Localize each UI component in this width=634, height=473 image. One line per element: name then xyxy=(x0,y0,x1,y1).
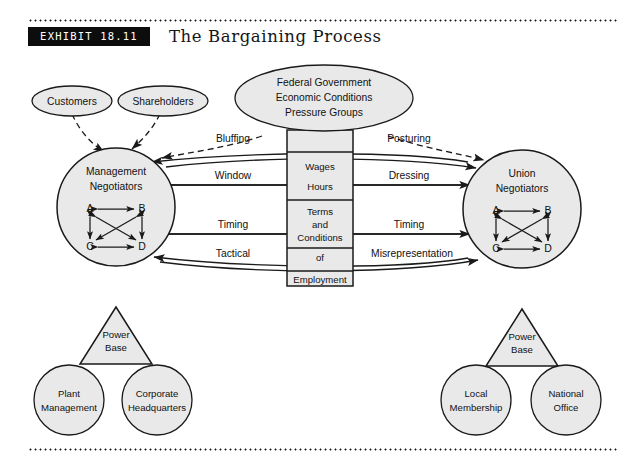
subject-wages: Wages xyxy=(305,161,335,172)
bargaining-process-diagram: Wages Hours Terms and Conditions of Empl… xyxy=(0,52,634,448)
label-misrepresentation: Misrepresentation xyxy=(371,248,453,259)
page-title: The Bargaining Process xyxy=(169,27,382,46)
label-window: Window xyxy=(215,170,252,181)
union-power-base: Power Base xyxy=(486,309,558,366)
local-membership-line-2: Membership xyxy=(450,402,503,413)
node-local-membership: Local Membership xyxy=(441,365,511,435)
customers-label: Customers xyxy=(47,96,97,107)
management-power-base: Power Base xyxy=(80,307,152,364)
label-timing-right: Timing xyxy=(394,219,425,230)
federal-line-2: Economic Conditions xyxy=(276,92,373,103)
node-union-negotiators: Union Negotiators A B C D xyxy=(463,150,581,268)
union-member-d: D xyxy=(544,242,552,254)
label-bluffing: Bluffing xyxy=(216,133,250,144)
exhibit-number-badge: EXHIBIT 18.11 xyxy=(28,27,150,46)
management-member-d: D xyxy=(138,240,146,252)
national-office-line-2: Office xyxy=(554,402,579,413)
node-plant-management: Plant Management xyxy=(34,365,104,435)
management-power-base-line-1: Power xyxy=(102,329,130,340)
management-member-a: A xyxy=(86,202,93,214)
union-title-line-2: Negotiators xyxy=(496,183,549,194)
label-dressing: Dressing xyxy=(389,170,430,181)
subject-employment: Employment xyxy=(293,274,347,285)
label-timing-left: Timing xyxy=(218,219,249,230)
union-member-c: C xyxy=(492,242,500,254)
node-national-office: National Office xyxy=(531,365,601,435)
label-tactical: Tactical xyxy=(216,248,250,259)
exhibit-page: EXHIBIT 18.11 The Bargaining Process xyxy=(0,0,634,473)
top-dotted-rule xyxy=(28,19,618,22)
union-member-a: A xyxy=(492,204,499,216)
subject-and: and xyxy=(312,219,328,230)
federal-line-1: Federal Government xyxy=(277,77,372,88)
label-posturing: Posturing xyxy=(387,133,431,144)
subject-matter-box: Wages Hours Terms and Conditions of Empl… xyxy=(287,130,353,286)
national-office-line-1: National xyxy=(548,388,583,399)
union-title-line-1: Union xyxy=(509,168,536,179)
node-customers: Customers xyxy=(32,86,112,116)
union-power-base-line-2: Base xyxy=(511,344,533,355)
node-federal-government: Federal Government Economic Conditions P… xyxy=(235,65,413,131)
node-corporate-headquarters: Corporate Headquarters xyxy=(122,365,192,435)
plant-management-line-2: Management xyxy=(41,402,97,413)
federal-line-3: Pressure Groups xyxy=(285,107,363,118)
subject-conditions: Conditions xyxy=(297,232,343,243)
link-customers-to-management xyxy=(72,114,104,152)
union-power-base-line-1: Power xyxy=(508,331,536,342)
plant-management-line-1: Plant xyxy=(58,388,80,399)
link-shareholders-to-management xyxy=(132,114,160,149)
management-member-b: B xyxy=(138,202,145,214)
bottom-dotted-rule xyxy=(28,448,618,451)
management-title-line-1: Management xyxy=(86,166,146,177)
shareholders-label: Shareholders xyxy=(132,96,193,107)
corporate-headquarters-line-2: Headquarters xyxy=(128,402,186,413)
local-membership-line-1: Local xyxy=(465,388,488,399)
subject-terms: Terms xyxy=(307,206,333,217)
subject-of: of xyxy=(316,252,324,263)
exhibit-header: EXHIBIT 18.11 The Bargaining Process xyxy=(28,26,382,46)
management-title-line-2: Negotiators xyxy=(90,181,143,192)
node-shareholders: Shareholders xyxy=(118,86,208,116)
corporate-headquarters-line-1: Corporate xyxy=(136,388,179,399)
subject-hours: Hours xyxy=(307,181,333,192)
union-member-b: B xyxy=(544,204,551,216)
node-management-negotiators: Management Negotiators A B C D xyxy=(57,148,175,266)
management-power-base-line-2: Base xyxy=(105,342,127,353)
management-member-c: C xyxy=(86,240,94,252)
